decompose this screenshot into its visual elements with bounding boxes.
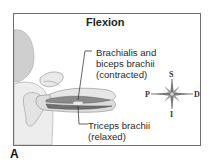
- label-line: (contracted): [96, 69, 156, 80]
- compass-label-distal: D: [194, 90, 200, 99]
- compass-rose-icon: [151, 79, 193, 109]
- compass-label-superior: S: [169, 70, 173, 79]
- diagram-title: Flexion: [86, 16, 125, 28]
- label-line: (relaxed): [88, 131, 150, 142]
- compass-label-proximal: P: [145, 90, 150, 99]
- label-triceps: Triceps brachii (relaxed): [88, 120, 150, 142]
- head-shape: [14, 30, 34, 82]
- label-line: Triceps brachii: [88, 120, 150, 131]
- compass-label-inferior: I: [170, 110, 173, 119]
- label-biceps-brachialis: Brachialis and biceps brachii (contracte…: [96, 47, 156, 80]
- label-line: Brachialis and: [96, 47, 156, 58]
- label-line: biceps brachii: [96, 58, 156, 69]
- hand-shape: [40, 72, 63, 87]
- panel-label: A: [10, 147, 19, 161]
